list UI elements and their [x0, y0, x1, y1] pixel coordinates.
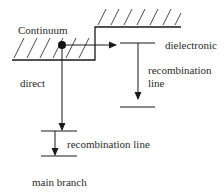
label-dr-line: line — [148, 77, 165, 89]
label-direct: direct — [20, 77, 45, 89]
label-continuum: Continuum — [18, 24, 68, 36]
label-recombination-line: recombination line — [67, 138, 150, 150]
label-main-branch: main branch — [32, 176, 87, 188]
label-dielectronic: dielectronic — [165, 39, 217, 51]
label-dr-recombination: recombination — [148, 64, 212, 76]
